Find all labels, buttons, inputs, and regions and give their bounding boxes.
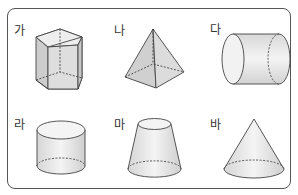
cone-icon bbox=[224, 119, 284, 178]
pentagonal-prism-icon bbox=[36, 29, 82, 89]
square-pyramid-icon bbox=[125, 29, 184, 88]
horizontal-cylinder-icon bbox=[222, 34, 290, 84]
solids-drawing bbox=[0, 0, 298, 195]
truncated-cone-icon bbox=[128, 119, 181, 178]
vertical-cylinder-icon bbox=[37, 121, 85, 174]
